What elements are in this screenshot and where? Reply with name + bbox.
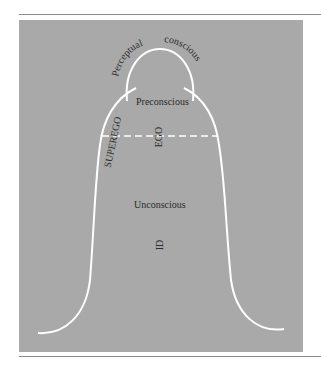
mind-structure-diagram: Perceptual conscious (0, 0, 321, 365)
id-label: ID (155, 237, 165, 253)
preconscious-label: Preconscious (136, 97, 189, 107)
right-bell-outline (184, 88, 284, 330)
perceptual-conscious-arch (127, 49, 194, 101)
bottom-rule (19, 356, 321, 357)
unconscious-label: Unconscious (134, 200, 186, 210)
conscious-label: conscious (164, 33, 204, 63)
ego-label: EGO (154, 124, 164, 150)
